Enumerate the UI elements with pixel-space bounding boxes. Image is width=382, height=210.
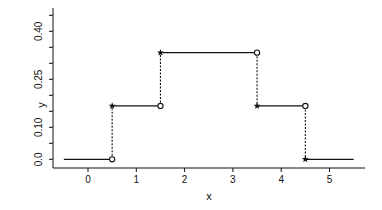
open-circle-marker-icon [303, 103, 308, 108]
open-circle-marker-icon [158, 103, 163, 108]
x-tick-label: 5 [327, 174, 333, 185]
y-axis-label: y [35, 102, 47, 108]
x-tick-label: 0 [85, 174, 91, 185]
x-axis-ticks: 012345 [85, 168, 333, 185]
star-marker-icon [302, 156, 309, 163]
y-tick-label: 0.10 [33, 117, 44, 137]
x-tick-label: 3 [230, 174, 236, 185]
x-tick-label: 2 [182, 174, 188, 185]
star-marker-icon [109, 102, 116, 109]
x-tick-label: 4 [278, 174, 284, 185]
x-tick-label: 1 [134, 174, 140, 185]
axes [53, 8, 365, 168]
y-axis-ticks: 0.00.100.250.40 [33, 15, 53, 166]
x-axis-label: x [206, 190, 212, 202]
y-tick-label: 0.0 [33, 152, 44, 166]
step-function-chart: 0.00.100.250.40 012345 x y [0, 0, 382, 210]
open-circle-marker-icon [254, 50, 259, 55]
y-tick-label: 0.40 [33, 21, 44, 41]
y-tick-label: 0.25 [33, 69, 44, 89]
star-marker-icon [254, 102, 261, 109]
step-segments [64, 53, 354, 160]
star-marker-icon [157, 49, 164, 56]
open-circle-marker-icon [110, 157, 115, 162]
